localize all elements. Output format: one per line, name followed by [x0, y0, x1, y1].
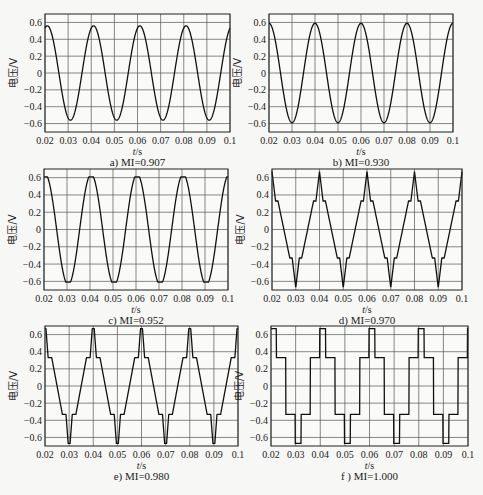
x-tick-label: 0.02	[36, 135, 54, 146]
y-tick-label: 0.4	[257, 189, 270, 200]
y-tick-label: 0.4	[254, 34, 267, 45]
x-tick-label: 0.1	[224, 135, 237, 146]
y-axis-label: 电压/V	[7, 371, 19, 401]
x-tick-label: 0.06	[129, 135, 147, 146]
x-tick-label: 0.04	[306, 135, 324, 146]
chart-panel-d: 0.60.40.20−0.2−0.4−0.60.020.030.040.050.…	[234, 169, 468, 327]
y-tick-label: −0.2	[24, 84, 42, 95]
y-tick-label: −0.2	[248, 84, 266, 95]
x-tick-label: 0.09	[196, 293, 214, 304]
x-tick-label: 0.02	[260, 135, 278, 146]
panel-caption: e) MI=0.980	[114, 470, 170, 483]
x-tick-label: 0.02	[35, 293, 53, 304]
y-tick-label: −0.4	[251, 259, 269, 270]
x-tick-label: 0.02	[36, 449, 54, 460]
x-tick-label: 0.04	[81, 293, 99, 304]
y-tick-label: −0.4	[248, 101, 266, 112]
x-tick-label: 0.1	[232, 449, 245, 460]
panel-caption: a) MI=0.907	[110, 156, 166, 169]
x-tick-label: 0.02	[262, 449, 280, 460]
x-tick-label: 0.06	[358, 293, 376, 304]
x-tick-label: 0.09	[421, 135, 439, 146]
x-tick-label: 0.1	[447, 135, 460, 146]
x-tick-label: 0.03	[59, 135, 77, 146]
y-tick-label: 0.6	[257, 172, 270, 183]
y-tick-label: −0.6	[24, 118, 42, 129]
y-tick-label: 0.2	[30, 51, 43, 62]
y-tick-label: 0.4	[30, 346, 43, 357]
x-tick-label: 0.04	[85, 449, 103, 460]
x-tick-label: 0.02	[263, 293, 281, 304]
y-tick-label: −0.4	[23, 259, 41, 270]
y-tick-label: 0.6	[30, 17, 43, 28]
x-tick-label: 0.06	[127, 293, 145, 304]
panel-caption: d) MI=0.970	[339, 314, 396, 327]
x-tick-label: 0.09	[198, 135, 216, 146]
y-tick-label: 0.4	[29, 189, 42, 200]
x-tick-label: 0.07	[382, 293, 400, 304]
y-tick-label: 0.6	[256, 329, 269, 340]
y-axis-label: 电压/V	[6, 214, 18, 244]
y-axis-label: 电压/V	[7, 58, 19, 88]
y-tick-label: −0.6	[251, 276, 269, 287]
y-tick-label: 0.6	[30, 329, 43, 340]
x-tick-label: 0.06	[352, 135, 370, 146]
y-tick-label: 0.2	[254, 51, 267, 62]
y-tick-label: −0.2	[251, 241, 269, 252]
panel-caption: f ) MI=1.000	[341, 470, 399, 483]
x-tick-label: 0.07	[157, 449, 175, 460]
y-tick-label: 0.2	[30, 363, 43, 374]
x-tick-label: 0.08	[398, 135, 416, 146]
x-tick-label: 0.04	[83, 135, 101, 146]
x-tick-label: 0.03	[60, 449, 78, 460]
y-tick-label: 0.4	[256, 346, 269, 357]
x-tick-label: 0.08	[181, 449, 199, 460]
x-tick-label: 0.08	[406, 293, 424, 304]
x-tick-label: 0.05	[106, 135, 124, 146]
y-axis-label: 电压/V	[233, 371, 245, 401]
x-tick-label: 0.03	[58, 293, 76, 304]
x-tick-label: 0.03	[283, 135, 301, 146]
x-tick-label: 0.07	[375, 135, 393, 146]
x-tick-label: 0.08	[173, 293, 191, 304]
chart-panel-f: 0.60.40.20−0.2−0.4−0.60.020.030.040.050.…	[233, 326, 474, 483]
y-tick-label: −0.2	[24, 398, 42, 409]
y-axis-label: 电压/V	[234, 214, 246, 244]
y-tick-label: 0	[263, 381, 268, 392]
x-tick-label: 0.05	[335, 293, 353, 304]
chart-panel-e: 0.60.40.20−0.2−0.4−0.60.020.030.040.050.…	[7, 326, 244, 483]
y-tick-label: 0.2	[29, 207, 42, 218]
x-tick-label: 0.08	[410, 449, 428, 460]
x-tick-label: 0.06	[361, 449, 379, 460]
y-tick-label: −0.4	[24, 415, 42, 426]
x-tick-label: 0.1	[222, 293, 235, 304]
y-tick-label: 0.6	[29, 172, 42, 183]
panel-caption: c) MI=0.952	[108, 314, 164, 327]
x-tick-label: 0.03	[287, 293, 305, 304]
x-tick-label: 0.05	[336, 449, 354, 460]
chart-panel-c: 0.60.40.20−0.2−0.4−0.60.020.030.040.050.…	[6, 169, 234, 327]
x-tick-label: 0.03	[287, 449, 305, 460]
y-tick-label: 0	[264, 224, 269, 235]
y-tick-label: −0.6	[23, 276, 41, 287]
y-tick-label: −0.6	[24, 432, 42, 443]
x-tick-label: 0.07	[150, 293, 168, 304]
y-tick-label: 0.2	[256, 363, 269, 374]
y-tick-label: −0.6	[248, 118, 266, 129]
y-tick-label: 0	[37, 381, 42, 392]
y-tick-label: −0.6	[250, 432, 268, 443]
y-tick-label: 0	[36, 224, 41, 235]
y-tick-label: 0.2	[257, 207, 270, 218]
figure-canvas: 0.60.40.20−0.2−0.4−0.60.020.030.040.050.…	[0, 0, 483, 495]
y-tick-label: 0	[261, 68, 266, 79]
x-tick-label: 0.07	[152, 135, 170, 146]
x-tick-label: 0.04	[311, 293, 329, 304]
y-tick-label: −0.4	[250, 415, 268, 426]
y-tick-label: 0.6	[254, 17, 267, 28]
x-tick-label: 0.05	[329, 135, 347, 146]
x-tick-label: 0.09	[435, 449, 453, 460]
y-tick-label: −0.2	[23, 241, 41, 252]
x-tick-label: 0.06	[133, 449, 151, 460]
y-tick-label: 0	[37, 68, 42, 79]
x-tick-label: 0.05	[109, 449, 127, 460]
